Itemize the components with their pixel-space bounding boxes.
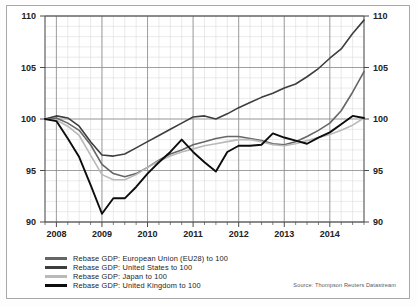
svg-text:2010: 2010	[138, 229, 158, 239]
source-attribution: Source: Thompson Reuters Datastream	[293, 282, 396, 288]
x-axis-labels: 2008200920102011201220132014	[46, 229, 339, 239]
legend-swatch-japan	[45, 275, 67, 278]
legend-item-uk: Rebase GDP: United Kingdom to 100	[45, 281, 305, 290]
svg-text:110: 110	[373, 11, 388, 21]
svg-text:2008: 2008	[46, 229, 66, 239]
legend-label-japan: Rebase GDP: Japan to 100	[73, 272, 167, 281]
svg-text:90: 90	[26, 217, 36, 227]
svg-text:100: 100	[21, 114, 36, 124]
svg-text:95: 95	[26, 166, 36, 176]
svg-text:90: 90	[373, 217, 383, 227]
svg-text:105: 105	[373, 63, 388, 73]
chart-figure: 9095100105110 9095100105110 200820092010…	[0, 0, 417, 306]
svg-text:110: 110	[21, 11, 36, 21]
svg-text:2012: 2012	[229, 229, 249, 239]
legend-label-us: Rebase GDP: United States to 100	[73, 263, 192, 272]
legend-swatch-us	[45, 266, 67, 269]
legend-item-eu: Rebase GDP: European Union (EU28) to 100	[45, 254, 305, 263]
legend-label-uk: Rebase GDP: United Kingdom to 100	[73, 281, 201, 290]
svg-text:100: 100	[373, 114, 388, 124]
svg-text:2013: 2013	[274, 229, 294, 239]
legend-label-eu: Rebase GDP: European Union (EU28) to 100	[73, 254, 228, 263]
legend-swatch-uk	[45, 284, 67, 287]
svg-text:2014: 2014	[320, 229, 340, 239]
svg-text:95: 95	[373, 166, 383, 176]
legend-item-japan: Rebase GDP: Japan to 100	[45, 272, 305, 281]
y-axis-labels-right: 9095100105110	[373, 11, 388, 227]
y-axis-labels-left: 9095100105110	[21, 11, 36, 227]
legend-item-us: Rebase GDP: United States to 100	[45, 263, 305, 272]
chart-legend: Rebase GDP: European Union (EU28) to 100…	[45, 254, 305, 290]
chart-frame: 9095100105110 9095100105110 200820092010…	[6, 5, 410, 299]
svg-text:2009: 2009	[92, 229, 112, 239]
svg-text:2011: 2011	[183, 229, 203, 239]
svg-text:105: 105	[21, 63, 36, 73]
legend-swatch-eu	[45, 257, 67, 260]
